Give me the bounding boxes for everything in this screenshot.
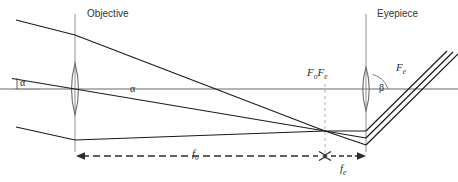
incident-ray-upper [16, 20, 75, 35]
beta-label: β [379, 83, 384, 93]
exit-ray-lower [366, 54, 458, 145]
incident-ray-lower [16, 127, 75, 140]
focal-point-subscript-o: o [314, 72, 318, 81]
focal-point-subscript-e: e [324, 72, 327, 81]
eyepiece-F-symbol: F [396, 61, 403, 73]
diverging-ray-lower [325, 131, 366, 145]
objective-label: Objective [87, 9, 129, 19]
converging-ray-lower [75, 131, 325, 140]
alpha-axis-label: α [130, 84, 135, 94]
eyepiece-F-subscript: e [403, 67, 406, 76]
exit-ray-middle [366, 52, 453, 138]
eyepiece-label: Eyepiece [377, 9, 418, 19]
diagram-canvas [0, 0, 458, 182]
alpha-incident-label: α [20, 78, 25, 88]
focal-point-F-objective: F [307, 66, 314, 78]
eyepiece-focal-point-label: Fe [396, 62, 406, 73]
fe-subscript: e [343, 168, 346, 177]
common-focal-point-label: FoFe [307, 67, 328, 78]
focal-length-eyepiece-label: fe [340, 163, 346, 174]
focal-length-objective-label: fo [192, 148, 199, 159]
converging-ray-axial [75, 89, 325, 131]
diverging-ray-middle [325, 131, 366, 138]
telescope-ray-diagram: Objective Eyepiece α α β FoFe Fe fo fe [0, 0, 458, 182]
focal-length-objective-arrow-left [76, 152, 85, 160]
converging-ray-upper [75, 35, 325, 131]
focal-length-eyepiece-arrow-right [357, 152, 366, 160]
fo-subscript: o [195, 153, 199, 162]
